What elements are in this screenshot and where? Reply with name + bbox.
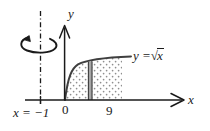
representative-shell-strip (88, 62, 92, 100)
axis-of-revolution-label: x = −1 (13, 106, 49, 119)
origin-tick-label: 0 (62, 103, 69, 116)
shell-method-figure: y x y =√x x = −1 0 9 (0, 0, 210, 131)
curve-equation-label: y =√x (133, 48, 164, 62)
rotation-arrow-icon (21, 36, 56, 53)
shaded-region (65, 57, 122, 100)
y-axis-label: y (68, 7, 74, 20)
curve-equation-lhs: y = (133, 48, 151, 63)
square-root-icon: √x (151, 48, 164, 62)
x-axis-label: x (188, 93, 194, 106)
curve-radicand: x (157, 48, 164, 62)
x-tick-label-nine: 9 (106, 104, 113, 117)
